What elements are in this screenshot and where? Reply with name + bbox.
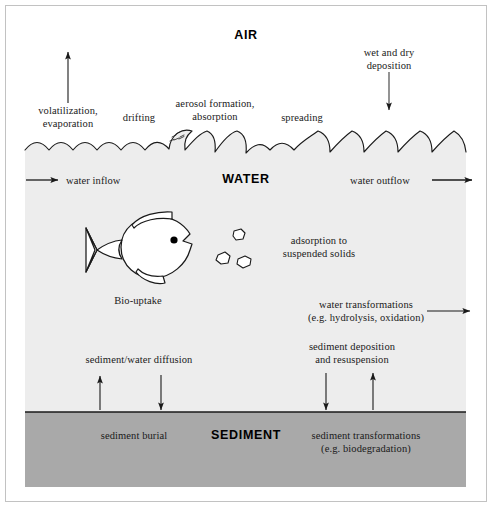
sediment-deposition-resuspension-label: sediment deposition and resuspension [293, 340, 411, 367]
aerosol-formation-label: aerosol formation, absorption [155, 97, 275, 124]
volatilization-label: volatilization, evaporation [14, 104, 122, 131]
water-outflow-label: water outflow [350, 174, 442, 187]
sediment-transformations-label: sediment transformations (e.g. biodegrad… [292, 429, 440, 456]
sediment-zone-title: SEDIMENT [186, 428, 306, 442]
water-transformations-label: water transformations (e.g. hydrolysis, … [296, 298, 436, 325]
bio-uptake-label: Bio-uptake [95, 294, 181, 307]
sediment-water-diffusion-label: sediment/water diffusion [68, 353, 210, 366]
air-zone-title: AIR [196, 28, 296, 42]
environmental-fate-diagram: AIR volatilization, evaporation drifting… [0, 0, 492, 507]
deposition-label: wet and dry deposition [341, 46, 437, 73]
water-inflow-label: water inflow [66, 174, 158, 187]
spreading-label: spreading [266, 111, 338, 124]
sediment-burial-label: sediment burial [78, 429, 190, 442]
water-zone-title: WATER [193, 172, 299, 186]
adsorption-label: adsorption to suspended solids [258, 234, 380, 261]
